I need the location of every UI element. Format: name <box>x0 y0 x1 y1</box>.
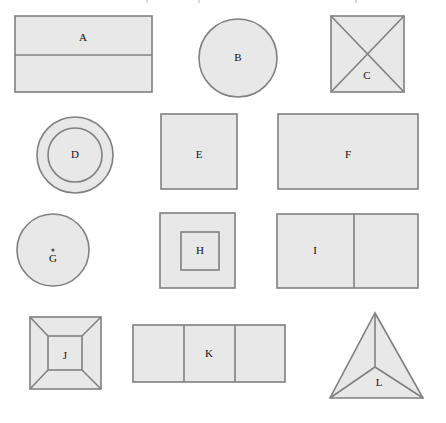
shapes-figure: A B C D E F <box>0 0 446 423</box>
shape-d-label: D <box>71 148 79 160</box>
shapes-canvas: A B C D E F <box>0 0 446 423</box>
shape-i-outline <box>277 214 418 288</box>
shape-b-label: B <box>234 51 241 63</box>
shape-c-label: C <box>363 69 370 81</box>
shape-b: B <box>199 19 277 97</box>
shape-i-label: I <box>313 244 317 256</box>
shape-a: A <box>15 16 152 92</box>
shape-l: L <box>330 313 423 398</box>
shape-j: J <box>30 317 101 389</box>
shape-l-label: L <box>376 376 383 388</box>
shape-h: H <box>160 213 235 288</box>
shape-a-label: A <box>79 31 87 43</box>
shape-f: F <box>278 114 418 189</box>
shape-e: E <box>161 114 237 189</box>
shape-g-label: G <box>49 252 57 264</box>
shape-f-label: F <box>345 148 351 160</box>
shape-j-label: J <box>63 349 68 361</box>
shape-a-outline <box>15 16 152 92</box>
cropped-text-marks <box>146 0 357 3</box>
shape-g: G <box>17 214 89 286</box>
shape-c: C <box>331 16 404 92</box>
shape-d: D <box>37 117 113 193</box>
shape-k-label: K <box>205 347 213 359</box>
shape-e-label: E <box>196 148 203 160</box>
shape-k: K <box>133 325 285 382</box>
shape-i: I <box>277 214 418 288</box>
shape-h-label: H <box>196 244 204 256</box>
